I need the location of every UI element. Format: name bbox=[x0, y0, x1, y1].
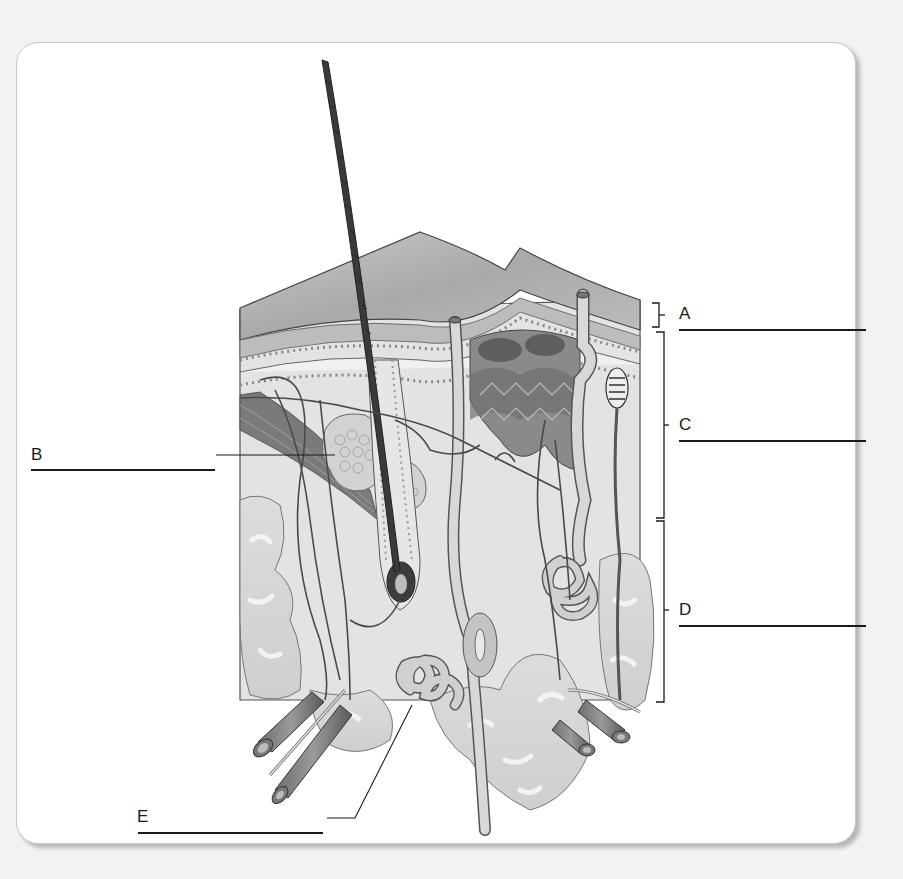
answer-blank-C[interactable] bbox=[679, 440, 866, 442]
bracket-A bbox=[652, 303, 665, 327]
bracket-C bbox=[656, 332, 669, 518]
label-C: C bbox=[679, 416, 691, 433]
label-B: B bbox=[31, 446, 42, 463]
bracket-D bbox=[656, 521, 669, 702]
answer-blank-E[interactable] bbox=[138, 832, 323, 834]
answer-blank-D[interactable] bbox=[679, 625, 866, 627]
pacinian-corpuscle bbox=[463, 613, 497, 677]
label-E: E bbox=[137, 808, 148, 825]
answer-blank-A[interactable] bbox=[679, 329, 866, 331]
label-D: D bbox=[679, 601, 691, 618]
answer-blank-B[interactable] bbox=[31, 469, 215, 471]
label-A: A bbox=[679, 305, 690, 322]
